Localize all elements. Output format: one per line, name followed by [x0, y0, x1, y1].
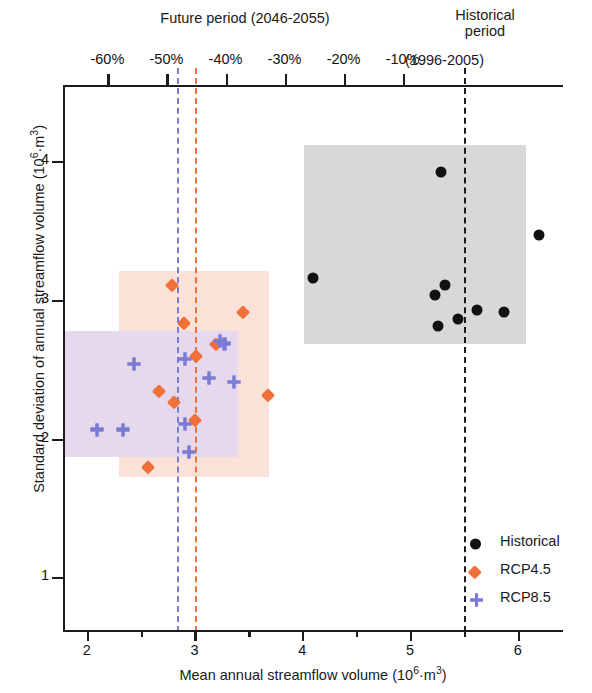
x-tick-minor	[248, 630, 250, 637]
top-tick	[344, 74, 346, 85]
annotation-future-period: Future period (2046-2055)	[75, 10, 415, 26]
data-point-rcp85	[203, 372, 216, 385]
annotation-historical-line1: Historical	[380, 7, 590, 23]
x-axis-title-mid: ·m	[419, 667, 436, 683]
top-tick	[107, 74, 109, 85]
data-point-rcp85	[178, 352, 191, 365]
x-tick-major	[518, 630, 520, 641]
range-band-0	[304, 145, 526, 343]
range-band-2	[65, 331, 238, 457]
data-point-rcp85	[127, 358, 140, 371]
y-tick-major	[52, 577, 63, 579]
legend-label: RCP4.5	[500, 561, 551, 577]
legend-label: RCP8.5	[500, 589, 551, 605]
x-tick-label: 3	[190, 643, 198, 658]
figure-canvas: Future period (2046-2055) Historical per…	[0, 0, 592, 693]
top-tick-label: -60%	[90, 52, 124, 67]
top-tick-label: -10%	[386, 52, 420, 67]
y-tick-major	[52, 439, 63, 441]
y-axis-title: Standard deviation of annual streamflow …	[29, 99, 47, 519]
data-point-rcp85	[218, 337, 231, 350]
x-tick-minor	[141, 630, 143, 637]
x-axis-title-end: )	[442, 667, 447, 683]
data-point-historical	[429, 290, 440, 301]
y-axis-title-sup2: 3	[29, 130, 40, 136]
data-point-rcp85	[178, 417, 191, 430]
x-tick-minor	[464, 630, 466, 637]
data-point-historical	[471, 305, 482, 316]
data-point-historical	[440, 280, 451, 291]
top-tick	[285, 74, 287, 85]
data-point-historical	[453, 313, 464, 324]
top-tick-label: -40%	[209, 52, 243, 67]
x-axis-title-main: Mean annual streamflow volume (10	[179, 667, 413, 683]
x-tick-major	[302, 630, 304, 641]
x-tick-label: 2	[83, 643, 91, 658]
reference-line-2	[177, 68, 179, 632]
y-axis-title-end: )	[31, 125, 47, 130]
top-tick-label: -30%	[268, 52, 302, 67]
plot-area	[63, 85, 563, 630]
y-axis-title-main: Standard deviation of annual streamflow …	[31, 158, 47, 493]
data-point-rcp85	[182, 445, 195, 458]
y-tick-major	[52, 161, 63, 163]
x-tick-major	[194, 630, 196, 641]
annotation-historical-line3-wrap: (1996-2005)	[405, 52, 575, 68]
annotation-historical-period: Historical period	[380, 7, 590, 39]
y-axis-title-sup1: 6	[29, 153, 40, 159]
data-point-historical	[307, 273, 318, 284]
y-tick-major	[52, 300, 63, 302]
data-point-historical	[534, 230, 545, 241]
data-point-historical	[498, 306, 509, 317]
data-point-historical	[432, 320, 443, 331]
top-tick-label: -20%	[327, 52, 361, 67]
x-tick-major	[410, 630, 412, 641]
x-tick-label: 5	[406, 643, 414, 658]
x-axis-title: Mean annual streamflow volume (106·m3)	[63, 665, 563, 683]
top-tick	[226, 74, 228, 85]
y-tick-label: 1	[33, 568, 49, 583]
x-tick-label: 4	[298, 643, 306, 658]
data-point-rcp85	[91, 423, 104, 436]
legend-label: Historical	[500, 533, 560, 549]
top-tick	[403, 74, 405, 85]
annotation-historical-line2: period	[380, 23, 590, 39]
top-tick-label: -50%	[150, 52, 184, 67]
data-point-historical	[436, 166, 447, 177]
x-tick-minor	[356, 630, 358, 637]
reference-line-0	[464, 68, 466, 632]
data-point-rcp85	[228, 376, 241, 389]
x-axis-line	[63, 630, 563, 632]
y-axis-title-mid: ·m	[31, 136, 47, 153]
x-tick-major	[87, 630, 89, 641]
annotation-future-line1: Future period (2046-2055)	[75, 10, 415, 26]
x-tick-label: 6	[514, 643, 522, 658]
legend-marker-circle-icon	[470, 539, 481, 550]
legend-marker-plus-icon	[470, 594, 483, 607]
top-tick	[166, 74, 168, 85]
data-point-rcp85	[117, 423, 130, 436]
